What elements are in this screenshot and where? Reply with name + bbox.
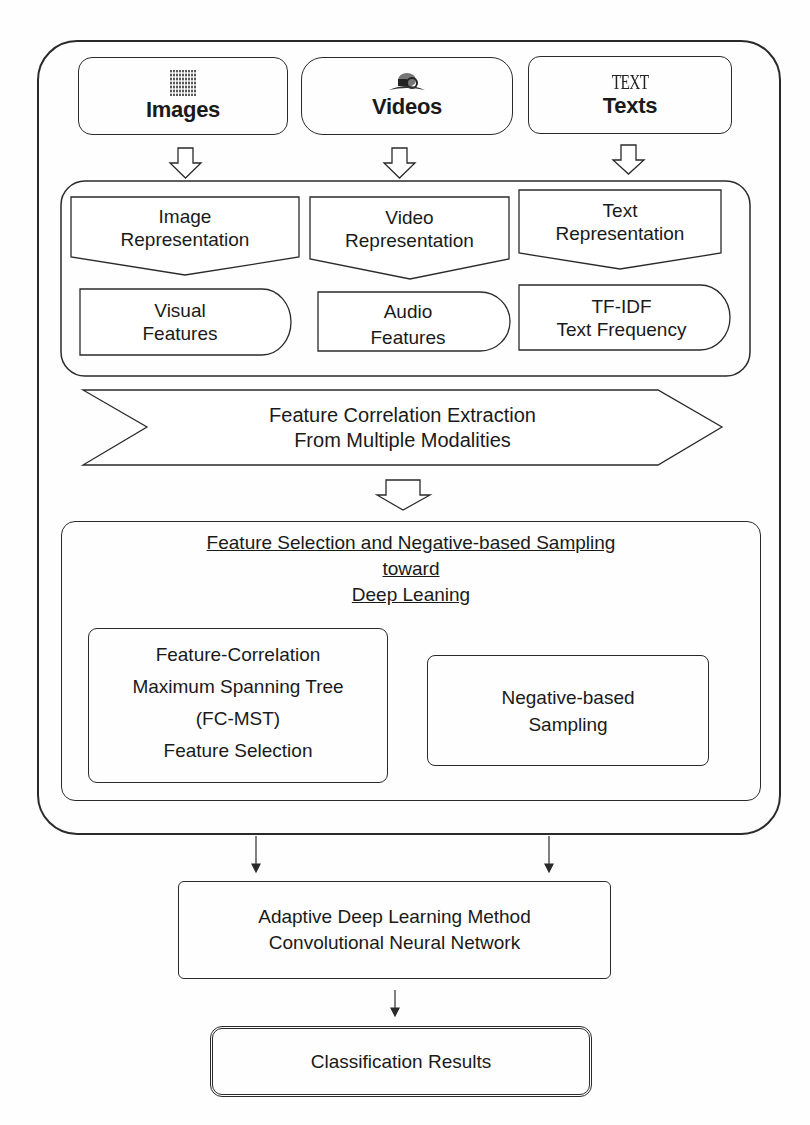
negative-sampling-box: Negative-based Sampling	[427, 655, 709, 766]
classification-results-box: Classification Results	[210, 1026, 592, 1097]
visual-features-line2: Features	[143, 322, 218, 345]
block-arrow-down-icon	[170, 148, 201, 178]
audio-features-label: Audio Features	[318, 294, 498, 354]
visual-features-line1: Visual	[154, 299, 205, 322]
negative-sampling-line2: Sampling	[528, 711, 607, 738]
video-representation-line1: Video	[385, 206, 433, 229]
fcmst-line2: Maximum Spanning Tree	[132, 671, 343, 703]
fcmst-line4: Feature Selection	[164, 735, 313, 767]
block-arrow-down-icon	[377, 480, 430, 510]
video-representation-line2: Representation	[345, 229, 474, 252]
correlation-line2: From Multiple Modalities	[294, 428, 511, 453]
arrow-down-icon	[545, 864, 553, 872]
correlation-label: Feature Correlation Extraction From Mult…	[147, 393, 658, 463]
audio-features-line1: Audio	[384, 300, 433, 323]
text-representation-line2: Representation	[556, 222, 685, 245]
fcmst-line1: Feature-Correlation	[156, 639, 321, 671]
tfidf-features-line1: TF-IDF	[591, 295, 651, 318]
tfidf-features-label: TF-IDF Text Frequency	[519, 285, 724, 350]
audio-features-line2: Features	[371, 326, 446, 349]
text-representation-line1: Text	[603, 199, 638, 222]
text-representation-label: Text Representation	[519, 193, 721, 251]
visual-features-label: Visual Features	[80, 289, 280, 355]
fcmst-box: Feature-Correlation Maximum Spanning Tre…	[88, 628, 388, 783]
image-representation-line2: Representation	[121, 228, 250, 251]
classification-results-label: Classification Results	[311, 1050, 492, 1073]
feature-selection-heading: Feature Selection and Negative-based Sam…	[61, 530, 761, 608]
block-arrow-down-icon	[384, 148, 415, 178]
video-representation-label: Video Representation	[310, 200, 509, 258]
cnn-line2: Convolutional Neural Network	[269, 930, 520, 956]
negative-sampling-line1: Negative-based	[501, 684, 634, 711]
cnn-box: Adaptive Deep Learning Method Convolutio…	[178, 881, 611, 979]
feature-selection-heading-line2: toward	[382, 556, 439, 582]
image-representation-line1: Image	[159, 205, 212, 228]
image-representation-label: Image Representation	[71, 200, 299, 256]
feature-selection-heading-line3: Deep Leaning	[352, 582, 470, 608]
correlation-line1: Feature Correlation Extraction	[269, 403, 536, 428]
fcmst-line3: (FC-MST)	[196, 703, 280, 735]
cnn-line1: Adaptive Deep Learning Method	[258, 904, 531, 930]
feature-selection-heading-line1: Feature Selection and Negative-based Sam…	[207, 530, 616, 556]
arrow-down-icon	[252, 864, 260, 872]
tfidf-features-line2: Text Frequency	[557, 318, 687, 341]
arrow-down-icon	[391, 1008, 399, 1016]
block-arrow-down-icon	[613, 145, 644, 174]
